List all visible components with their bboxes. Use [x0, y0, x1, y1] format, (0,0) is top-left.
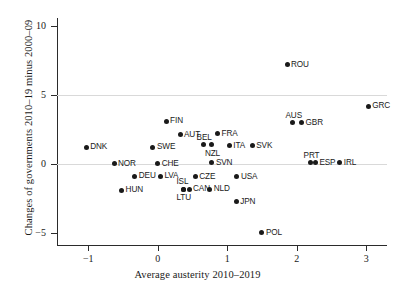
data-point-label-hun: HUN: [126, 185, 143, 194]
data-point-label-nld: NLD: [214, 184, 230, 193]
x-tick--1: [88, 245, 89, 251]
data-point-label-svk: SVK: [256, 141, 272, 150]
data-point-label-irl: IRL: [344, 158, 356, 167]
data-point-label-fin: FIN: [170, 116, 183, 125]
data-point-bel[interactable]: [201, 142, 206, 147]
data-point-label-grc: GRC: [372, 101, 390, 110]
data-point-grc[interactable]: [366, 104, 371, 109]
data-point-label-che: CHE: [162, 159, 179, 168]
x-tick-label-1: 1: [212, 253, 242, 264]
data-point-usa[interactable]: [234, 174, 239, 179]
x-tick-2: [297, 245, 298, 251]
x-tick-1: [227, 245, 228, 251]
data-point-jpn[interactable]: [234, 199, 239, 204]
data-point-label-svn: SVN: [216, 158, 233, 167]
data-point-label-aus: AUS: [286, 111, 303, 120]
data-point-label-gbr: GBR: [306, 118, 323, 127]
data-point-aus[interactable]: [290, 120, 295, 125]
data-point-lva[interactable]: [158, 174, 163, 179]
x-tick-label-0: 0: [143, 253, 173, 264]
y-tick-label-5: 5: [16, 89, 46, 100]
data-point-che[interactable]: [155, 161, 160, 166]
data-point-label-pol: POL: [266, 228, 282, 237]
data-point-label-esp: ESP: [319, 158, 335, 167]
data-point-hun[interactable]: [119, 188, 124, 193]
x-tick-label-2: 2: [282, 253, 312, 264]
data-point-label-prt: PRT: [304, 151, 320, 160]
data-point-label-nor: NOR: [118, 159, 136, 168]
data-point-deu[interactable]: [132, 174, 137, 179]
data-point-nld[interactable]: [207, 187, 212, 192]
data-point-dnk[interactable]: [84, 145, 89, 150]
y-tick-0: [51, 164, 57, 165]
data-point-nor[interactable]: [112, 161, 117, 166]
data-point-fin[interactable]: [164, 119, 169, 124]
x-tick-0: [158, 245, 159, 251]
data-point-fra[interactable]: [215, 131, 220, 136]
data-point-label-ita: ITA: [233, 141, 245, 150]
gridline-y-5: [57, 95, 387, 96]
y-tick-label-10: 10: [16, 20, 46, 31]
x-tick-3: [366, 245, 367, 251]
data-point-label-cze: CZE: [199, 172, 215, 181]
data-point-pol[interactable]: [259, 230, 264, 235]
scatter-chart: Changes of governments 2010–19 minus 200…: [0, 0, 395, 292]
data-point-label-isl: ISL: [176, 177, 188, 186]
data-point-ita[interactable]: [227, 143, 232, 148]
y-tick-label--5: −5: [16, 227, 46, 238]
data-point-gbr[interactable]: [299, 120, 304, 125]
y-tick-label-0: 0: [16, 158, 46, 169]
data-point-label-jpn: JPN: [240, 197, 255, 206]
y-axis-label: Changes of governments 2010–19 minus 200…: [23, 8, 34, 248]
data-point-label-deu: DEU: [139, 171, 156, 180]
data-point-label-dnk: DNK: [90, 142, 107, 151]
data-point-label-usa: USA: [241, 172, 258, 181]
y-axis-line: [57, 18, 58, 245]
data-point-label-ltu: LTU: [176, 193, 191, 202]
data-point-rou[interactable]: [285, 62, 290, 67]
data-point-svk[interactable]: [250, 143, 255, 148]
x-tick-label-3: 3: [351, 253, 381, 264]
data-point-swe[interactable]: [150, 145, 155, 150]
data-point-esp[interactable]: [313, 160, 318, 165]
data-point-label-fra: FRA: [222, 129, 238, 138]
data-point-label-bel: BEL: [197, 133, 212, 142]
y-tick-10: [51, 26, 57, 27]
data-point-label-rou: ROU: [291, 60, 309, 69]
data-point-nzl[interactable]: [209, 142, 214, 147]
x-axis-label: Average austerity 2010–2019: [0, 269, 395, 280]
data-point-ltu[interactable]: [181, 187, 186, 192]
data-point-aut[interactable]: [178, 132, 183, 137]
y-tick-5: [51, 95, 57, 96]
data-point-label-swe: SWE: [157, 142, 175, 151]
data-point-can[interactable]: [187, 187, 192, 192]
y-tick--5: [51, 233, 57, 234]
x-axis-line: [57, 245, 387, 246]
data-point-label-nzl: NZL: [205, 149, 220, 158]
data-point-cze[interactable]: [193, 174, 198, 179]
x-tick-label--1: −1: [73, 253, 103, 264]
